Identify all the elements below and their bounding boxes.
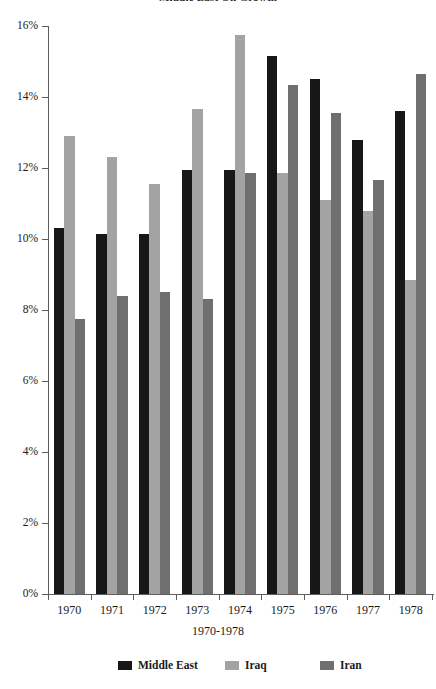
x-axis-tick-label: 1974	[217, 603, 263, 617]
y-axis-tick-label: 6%	[0, 375, 38, 386]
legend-item-middle-east[interactable]: Middle East	[118, 658, 198, 672]
legend-item-iraq[interactable]: Iraq	[225, 658, 267, 672]
chart-legend: Middle EastIraqIran	[0, 658, 436, 674]
bar-iraq-1976	[320, 200, 331, 594]
x-axis-tick	[261, 594, 262, 600]
y-axis-tick-label: 16%	[0, 20, 38, 31]
y-axis-tick-label: 4%	[0, 446, 38, 457]
y-axis-tick-label: 14%	[0, 91, 38, 102]
bar-iraq-1978	[405, 280, 416, 594]
y-axis-tick-label: 10%	[0, 233, 38, 244]
x-axis-tick-label: 1972	[132, 603, 178, 617]
bar-iran-1970	[75, 319, 86, 594]
bar-middle-east-1974	[224, 170, 235, 594]
y-axis-tick-label: 0%	[0, 588, 38, 599]
bar-iran-1974	[245, 173, 256, 594]
bar-middle-east-1973	[182, 170, 193, 594]
legend-label: Iran	[340, 659, 362, 671]
x-axis-tick	[91, 594, 92, 600]
bar-iraq-1974	[235, 35, 246, 594]
plot-area	[48, 26, 432, 594]
legend-swatch-icon	[225, 661, 239, 670]
bar-middle-east-1970	[54, 228, 65, 594]
bar-middle-east-1976	[310, 79, 321, 594]
x-axis-tick	[432, 594, 433, 600]
bar-middle-east-1972	[139, 234, 150, 594]
bar-iran-1977	[373, 180, 384, 594]
bar-iraq-1971	[107, 157, 118, 594]
bar-middle-east-1978	[395, 111, 406, 594]
bar-iran-1976	[331, 113, 342, 594]
bar-chart: Middle East Oil Growth 0%2%4%6%8%10%12%1…	[0, 0, 436, 689]
bar-middle-east-1971	[96, 234, 107, 594]
x-axis-tick-label: 1973	[174, 603, 220, 617]
bar-iran-1971	[117, 296, 128, 594]
bar-iran-1978	[416, 74, 427, 594]
x-axis-tick-label: 1971	[89, 603, 135, 617]
legend-swatch-icon	[118, 661, 132, 670]
x-axis-tick-label: 1978	[388, 603, 434, 617]
x-axis-tick	[389, 594, 390, 600]
bar-iraq-1977	[363, 211, 374, 594]
x-axis-tick-label: 1977	[345, 603, 391, 617]
chart-title: Middle East Oil Growth	[0, 0, 436, 2]
y-axis-tick-label: 12%	[0, 162, 38, 173]
x-axis-line	[42, 594, 434, 595]
y-axis-tick-label: 8%	[0, 304, 38, 315]
bar-iran-1973	[203, 299, 214, 594]
x-axis-tick	[48, 594, 49, 600]
x-axis-tick	[176, 594, 177, 600]
bar-iran-1975	[288, 85, 299, 594]
legend-label: Middle East	[138, 659, 198, 671]
x-axis-tick-label: 1970	[46, 603, 92, 617]
x-axis-tick-label: 1976	[302, 603, 348, 617]
bar-iraq-1970	[64, 136, 75, 594]
x-axis-tick	[219, 594, 220, 600]
legend-item-iran[interactable]: Iran	[320, 658, 362, 672]
bar-iraq-1975	[277, 173, 288, 594]
legend-label: Iraq	[245, 659, 267, 671]
y-axis-tick-label: 2%	[0, 517, 38, 528]
x-axis-tick	[304, 594, 305, 600]
bar-iraq-1973	[192, 109, 203, 594]
bar-middle-east-1975	[267, 56, 278, 594]
x-axis-title: 1970-1978	[0, 624, 436, 639]
x-axis-tick-label: 1975	[260, 603, 306, 617]
x-axis-tick	[133, 594, 134, 600]
bar-middle-east-1977	[352, 140, 363, 594]
legend-swatch-icon	[320, 661, 334, 670]
x-axis-tick	[347, 594, 348, 600]
bar-iran-1972	[160, 292, 171, 594]
bar-iraq-1972	[149, 184, 160, 594]
